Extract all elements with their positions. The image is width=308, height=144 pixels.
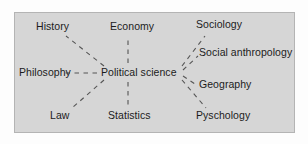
node-sociology: Sociology (196, 19, 242, 30)
edge-center-geography (183, 76, 198, 86)
edge-center-history (66, 36, 104, 66)
node-law: Law (50, 110, 69, 121)
node-philosophy: Philosophy (19, 67, 71, 78)
node-statistics: Statistics (108, 110, 151, 121)
node-economy: Economy (110, 21, 154, 32)
node-history: History (36, 21, 69, 32)
node-social-anthropology: Social anthropology (199, 47, 292, 58)
node-geography: Geography (199, 79, 251, 90)
node-psychology: Pyschology (196, 110, 250, 121)
concept-map-figure: History Economy Sociology Philosophy Pol… (0, 0, 308, 144)
node-political-science: Political science (101, 67, 177, 78)
edge-center-socialanth (183, 56, 198, 70)
edge-center-law (72, 80, 104, 108)
